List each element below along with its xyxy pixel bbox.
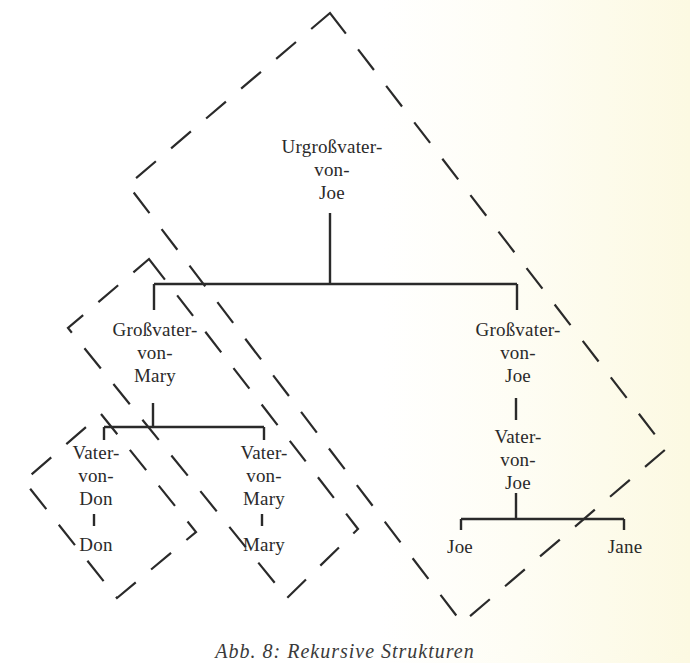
node-vater-von-don: Vater- von- Don xyxy=(72,441,119,510)
node-mary: Mary xyxy=(243,533,285,556)
node-vater-von-joe: Vater- von- Joe xyxy=(494,425,541,494)
edge-root xyxy=(154,213,517,310)
node-vater-von-mary: Vater- von- Mary xyxy=(240,441,287,510)
node-grossvater-von-mary: Großvater- von- Mary xyxy=(113,318,198,387)
edge-father-joe xyxy=(461,493,624,530)
node-joe: Joe xyxy=(447,535,473,558)
figure-caption: Abb. 8: Rekursive Strukturen xyxy=(0,640,690,663)
node-grossvater-von-joe: Großvater- von- Joe xyxy=(476,318,561,387)
node-don: Don xyxy=(79,533,112,556)
node-jane: Jane xyxy=(608,535,643,558)
large-dashed-group xyxy=(128,13,666,623)
node-urgrossvater-von-joe: Urgroßvater- von- Joe xyxy=(282,135,383,204)
edge-grandfather-mary xyxy=(104,403,264,440)
